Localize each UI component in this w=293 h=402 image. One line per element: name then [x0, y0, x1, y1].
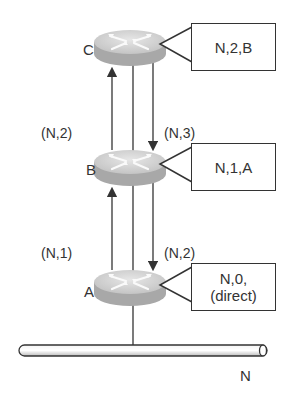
network-segment-icon [19, 345, 267, 356]
link-a-b [112, 182, 153, 272]
router-a-label: A [84, 283, 94, 300]
routing-entry: N,0, [220, 270, 248, 287]
router-icon [94, 270, 166, 306]
routing-entry: N,2,B [215, 39, 253, 56]
routing-entry: N,1,A [215, 159, 253, 176]
router-icon [94, 30, 166, 66]
link-b-c [112, 62, 153, 152]
routing-table-box-b: N,1,A [191, 143, 276, 191]
link-bc-down-label: (N,3) [164, 125, 195, 141]
link-ab-up-label: (N,1) [41, 245, 72, 261]
diagram-canvas: C B A N,2,B N,1,A N,0, (direct) (N,2) (N… [0, 0, 293, 402]
routing-entry-note: (direct) [210, 287, 257, 304]
link-bc-up-label: (N,2) [41, 125, 72, 141]
network-label: N [240, 367, 251, 384]
router-icon [94, 150, 166, 186]
routing-table-box-a: N,0, (direct) [191, 263, 276, 311]
router-c-label: C [83, 41, 94, 58]
link-ab-down-label: (N,2) [164, 245, 195, 261]
routing-table-box-c: N,2,B [191, 23, 276, 71]
router-b-label: B [86, 161, 96, 178]
